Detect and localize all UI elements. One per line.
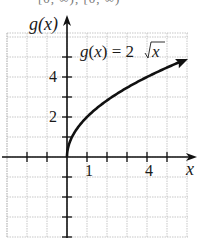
x-tick-label: 4: [145, 162, 153, 179]
tick-labels: 1424: [49, 68, 153, 179]
x-axis-label: x: [185, 159, 194, 179]
y-axis-label: g(x): [29, 14, 58, 35]
grid: [7, 33, 188, 238]
y-tick-label: 2: [49, 108, 57, 125]
y-tick-label: 4: [49, 68, 57, 85]
x-tick-label: 1: [85, 162, 93, 179]
ticks: [27, 57, 167, 237]
function-label-radicand: x: [151, 42, 160, 61]
graph: g(x) x g(x) = 2 x 1424: [0, 0, 199, 238]
function-label-lhs: g(x) = 2: [80, 42, 134, 61]
function-label: g(x) = 2 x: [80, 42, 165, 61]
function-curve: [67, 61, 182, 157]
